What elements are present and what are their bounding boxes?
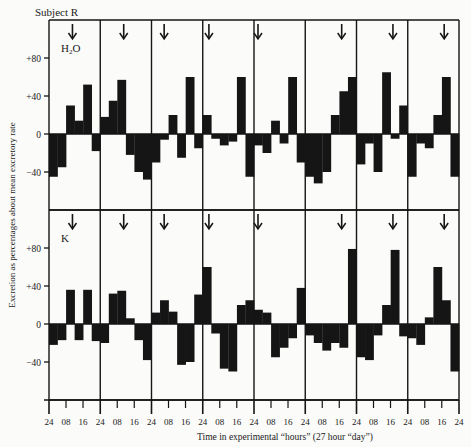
y-tick-label: 0	[36, 130, 41, 140]
bar	[220, 324, 229, 369]
bar	[160, 134, 169, 140]
y-tick-label: +80	[26, 244, 41, 254]
bar	[186, 77, 195, 134]
bar	[314, 134, 323, 183]
bar	[408, 134, 417, 177]
x-tick-label: 16	[284, 417, 294, 427]
bar	[177, 324, 186, 365]
x-axis: 2408162408162408162408162408162408162408…	[44, 400, 464, 427]
bar	[134, 324, 143, 340]
x-tick-label: 16	[130, 417, 140, 427]
bar	[58, 134, 67, 167]
bar	[117, 80, 126, 134]
bar	[49, 324, 58, 345]
x-tick-label: 24	[250, 417, 260, 427]
bar	[382, 305, 391, 324]
x-tick-label: 16	[79, 417, 89, 427]
down-arrow-icon	[68, 214, 76, 229]
bar	[228, 134, 237, 142]
bar	[442, 77, 451, 134]
bar	[357, 134, 366, 164]
bar	[203, 267, 212, 324]
down-arrow-icon	[68, 24, 76, 39]
bar	[322, 134, 331, 172]
bar	[237, 305, 246, 324]
bar	[297, 134, 306, 163]
x-tick-label: 08	[215, 417, 225, 427]
bar	[203, 115, 212, 134]
down-arrow-icon	[205, 214, 213, 229]
x-tick-label: 24	[198, 417, 208, 427]
x-tick-label: 08	[369, 417, 379, 427]
bar	[365, 134, 374, 144]
y-axis-label: Excretion as percentages about mean excr…	[7, 122, 17, 307]
bar	[75, 324, 84, 340]
bar	[416, 324, 425, 345]
bar	[348, 77, 357, 134]
bar	[211, 324, 220, 334]
bar	[143, 324, 152, 360]
x-tick-label: 24	[455, 417, 465, 427]
bar	[263, 313, 272, 324]
bar	[66, 106, 75, 135]
bar	[92, 134, 101, 151]
bar	[374, 134, 383, 172]
down-arrow-icon	[160, 24, 168, 39]
bar	[177, 134, 186, 158]
down-arrow-icon	[440, 24, 448, 39]
bar	[109, 101, 118, 134]
panel-h2o: −400+40+80H2O	[26, 20, 459, 210]
bar	[143, 134, 152, 180]
y-tick-label: −40	[26, 168, 41, 178]
bar	[357, 324, 366, 357]
bar	[450, 134, 459, 177]
bar	[117, 291, 126, 324]
bar	[399, 106, 408, 135]
bar	[348, 249, 357, 324]
bar	[83, 85, 92, 134]
down-arrow-icon	[120, 214, 128, 229]
bar	[83, 290, 92, 324]
down-arrow-icon	[389, 214, 397, 229]
bar	[263, 134, 272, 153]
x-axis-label: Time in experimental “hours” (27 hour “d…	[197, 432, 373, 443]
bar	[49, 134, 58, 177]
bar	[331, 324, 340, 343]
bar	[322, 324, 331, 351]
bar	[160, 300, 169, 324]
panel-k: −400+40+80K	[26, 210, 459, 400]
series-label: H2O	[61, 42, 80, 56]
bar	[66, 290, 75, 324]
bar	[382, 72, 391, 134]
down-arrow-icon	[440, 214, 448, 229]
bar	[228, 324, 237, 372]
bar	[271, 324, 280, 357]
bar	[365, 324, 374, 360]
bar	[254, 310, 263, 324]
y-tick-label: −40	[26, 358, 41, 368]
bar	[450, 324, 459, 372]
x-tick-label: 08	[318, 417, 328, 427]
bar	[109, 294, 118, 324]
bar	[305, 134, 314, 177]
y-tick-label: 0	[36, 320, 41, 330]
bar	[92, 324, 101, 341]
x-tick-label: 08	[420, 417, 430, 427]
x-tick-label: 08	[62, 417, 72, 427]
bar	[58, 324, 67, 340]
down-arrow-icon	[338, 24, 346, 39]
bar	[280, 324, 289, 348]
x-tick-label: 16	[232, 417, 242, 427]
bar	[126, 134, 135, 155]
bar	[271, 121, 280, 134]
bar	[194, 295, 203, 324]
x-tick-label: 24	[96, 417, 106, 427]
x-tick-label: 16	[437, 417, 447, 427]
bar	[169, 312, 178, 324]
bar	[194, 134, 203, 148]
x-tick-label: 16	[386, 417, 396, 427]
down-arrow-icon	[160, 214, 168, 229]
bar	[245, 134, 254, 177]
chart: Subject R Excretion as percentages about…	[0, 0, 471, 447]
series-label: K	[61, 232, 69, 244]
